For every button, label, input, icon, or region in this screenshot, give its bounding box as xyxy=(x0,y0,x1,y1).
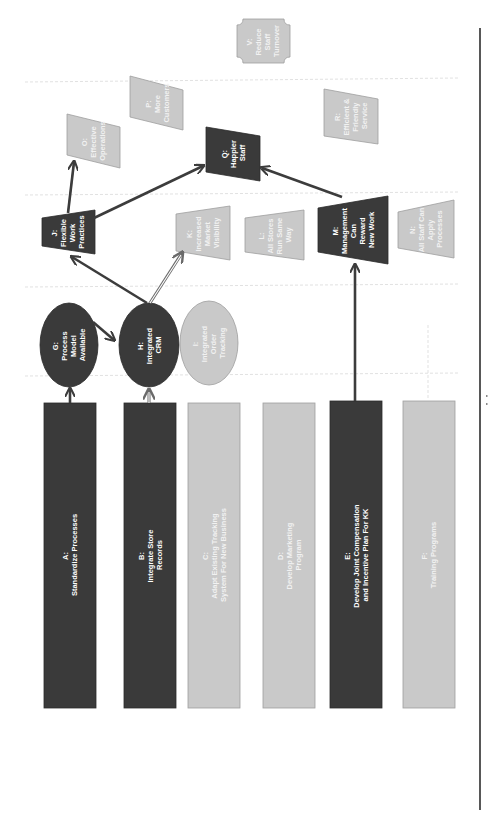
node-k[interactable]: K: Increased Market Visibility xyxy=(176,206,230,260)
node-i[interactable]: I: Integrated Order Tracking xyxy=(180,301,238,385)
node-l[interactable]: L: All Stores Run Same Way xyxy=(245,210,304,260)
node-r[interactable]: R: Efficient & Friendly Service xyxy=(324,89,378,144)
benefits-dependency-diagram: A: Standardize Processes B: Integrate St… xyxy=(0,0,488,829)
node-o[interactable]: O: Effective Operations xyxy=(67,114,120,168)
edge-h-k xyxy=(150,253,182,303)
edge-j-q xyxy=(94,166,203,218)
node-j[interactable]: J: Flexible Work Practices xyxy=(42,210,95,254)
edge-h-j xyxy=(72,257,147,303)
edge-m-q xyxy=(262,168,342,197)
node-g[interactable]: G: Process Model Available xyxy=(40,303,98,387)
node-p[interactable]: P: More Customers xyxy=(130,76,183,130)
node-h[interactable]: H: Integrated CRM xyxy=(119,303,179,387)
edge-j-o xyxy=(68,162,74,213)
guide-line xyxy=(25,284,460,287)
page-margin-text xyxy=(486,395,488,405)
node-v[interactable]: V: Reduce Staff Turnover xyxy=(237,19,290,63)
node-n[interactable]: N: All Staff Can Apply Processes xyxy=(398,200,454,258)
guide-line xyxy=(25,78,460,82)
node-e[interactable]: E: Develop Joint Compensation and Incent… xyxy=(330,401,382,708)
node-f[interactable]: F: Training Programs xyxy=(403,401,455,708)
node-b[interactable]: B: Integrate Store Records xyxy=(124,403,176,708)
node-d[interactable]: D: Develop Marketing Program xyxy=(263,403,315,708)
node-a[interactable]: A: Standardize Processes xyxy=(44,403,96,708)
node-m[interactable]: M: Management Can Reward New Work xyxy=(318,196,388,264)
guide-line xyxy=(25,192,460,195)
node-q[interactable]: Q: Happier Staff xyxy=(206,127,260,181)
node-c[interactable]: C: Adapt Existing Tracking System For Ne… xyxy=(188,403,240,708)
